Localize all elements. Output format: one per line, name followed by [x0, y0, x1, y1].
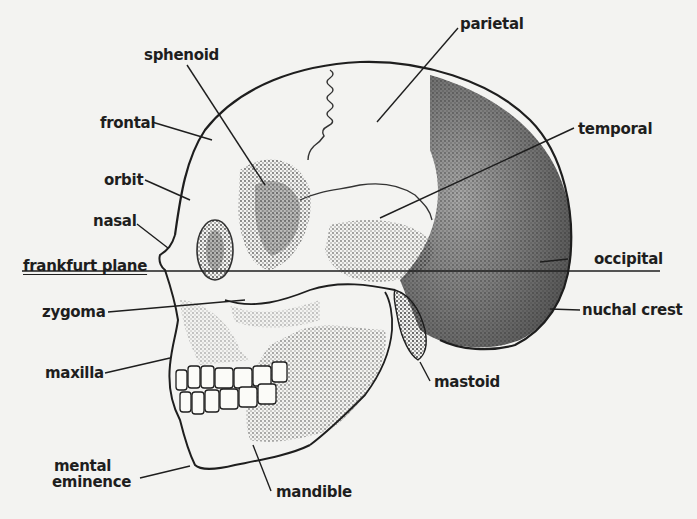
coronal-suture: [308, 70, 333, 160]
label-mastoid: mastoid: [434, 374, 500, 390]
label-occipital: occipital: [594, 251, 663, 267]
label-frontal: frontal: [100, 115, 155, 131]
label-sphenoid: sphenoid: [144, 47, 219, 63]
skull-diagram: sphenoid parietal frontal temporal orbit…: [0, 0, 697, 519]
label-mental-eminence-line1: mental: [52, 458, 132, 474]
label-temporal: temporal: [578, 121, 652, 137]
label-maxilla: maxilla: [45, 365, 104, 381]
zygomatic-arch: [225, 284, 395, 304]
label-zygoma: zygoma: [42, 304, 106, 320]
label-parietal: parietal: [460, 16, 524, 32]
label-mandible: mandible: [276, 484, 352, 500]
label-nasal: nasal: [93, 213, 137, 229]
label-mental-eminence: mental eminence: [52, 458, 132, 490]
label-orbit: orbit: [104, 172, 143, 188]
label-nuchal-crest: nuchal crest: [582, 302, 682, 318]
squamous-suture: [300, 184, 432, 220]
label-frankfurt-plane: frankfurt plane: [23, 258, 147, 274]
label-mental-eminence-line2: eminence: [52, 474, 132, 490]
